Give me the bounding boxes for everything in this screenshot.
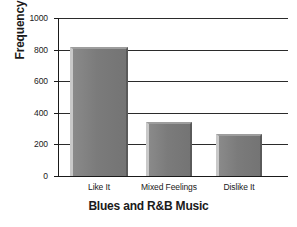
bar-fill: [149, 124, 190, 176]
bar-fill: [73, 49, 126, 176]
y-tick-label-600: 600: [34, 76, 48, 86]
bar-mixed-feelings: [146, 122, 192, 176]
bar-like-it: [70, 47, 128, 176]
bar-dislike-it: [216, 134, 262, 176]
y-tick-1000: 1000: [54, 18, 59, 19]
plot-area: 1000 800 600 400 200 0: [58, 18, 288, 176]
gridline-1000: [58, 18, 288, 19]
y-tick-400: 400: [54, 113, 59, 114]
y-tick-600: 600: [54, 81, 59, 82]
y-tick-label-400: 400: [34, 108, 48, 118]
y-tick-800: 800: [54, 50, 59, 51]
bar-chart: Frequency 1000 800 600 400 200 0: [0, 0, 297, 227]
y-axis-title: Frequency: [10, 0, 30, 75]
x-tick-label-dislike-it: Dislike It: [181, 182, 297, 192]
y-tick-200: 200: [54, 144, 59, 145]
bar-fill: [219, 136, 260, 176]
x-axis-line: [58, 176, 288, 177]
y-axis-line: [58, 18, 59, 177]
y-tick-label-0: 0: [43, 171, 48, 181]
y-tick-label-1000: 1000: [29, 13, 48, 23]
x-axis-title: Blues and R&B Music: [0, 199, 297, 213]
y-tick-label-800: 800: [34, 45, 48, 55]
y-tick-0: 0: [54, 176, 59, 177]
y-tick-label-200: 200: [34, 139, 48, 149]
